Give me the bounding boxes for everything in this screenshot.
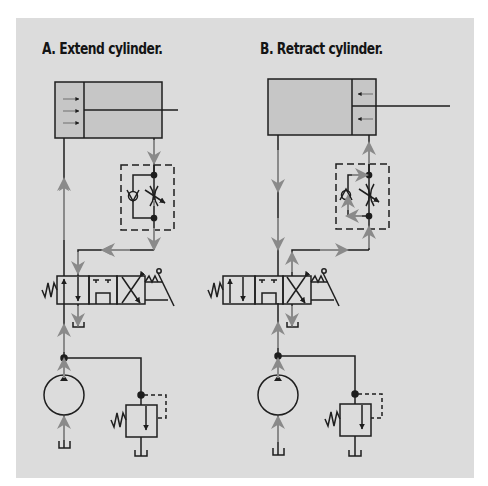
check-valve-icon — [340, 189, 352, 200]
cylinder-b — [268, 79, 450, 135]
flow-control-valve-a — [121, 165, 174, 250]
lever-actuator-icon — [311, 269, 339, 306]
check-valve-icon — [127, 190, 139, 201]
cylinder-a — [55, 82, 178, 138]
lever-actuator-icon — [145, 269, 174, 306]
line-a-return — [78, 250, 154, 276]
spring-icon — [111, 413, 126, 427]
diagram-a-extend — [42, 82, 178, 456]
pump-a — [44, 375, 84, 415]
spring-icon — [208, 283, 223, 297]
directional-valve-b — [208, 269, 339, 306]
spring-icon — [325, 412, 340, 426]
flow-control-valve-b — [336, 164, 389, 250]
diagram-b-retract — [208, 79, 450, 456]
pump-b — [258, 375, 298, 415]
spring-icon — [42, 283, 57, 297]
directional-valve-a — [42, 269, 174, 306]
relief-valve-a — [111, 392, 166, 456]
relief-valve-b — [325, 391, 382, 456]
hydraulic-schematic — [0, 0, 488, 486]
